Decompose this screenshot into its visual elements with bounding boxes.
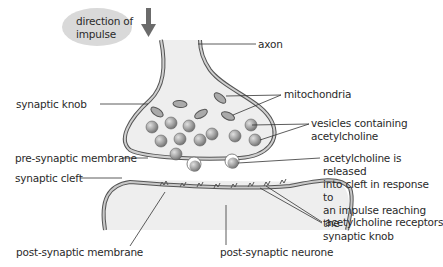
label-release-line-2: into cleft in response to: [323, 178, 440, 204]
label-synaptic-knob: synaptic knob: [16, 98, 87, 111]
label-vesicles-line-1: vesicles containing: [311, 117, 407, 130]
label-vesicles-line-2: acetylcholine: [311, 130, 407, 143]
label-post-synaptic-membrane: post-synaptic membrane: [16, 246, 143, 259]
direction-line-2: impulse: [76, 28, 133, 41]
label-axon: axon: [258, 38, 283, 51]
label-acetylcholine-release: acetylcholine is released into cleft in …: [323, 152, 440, 243]
label-pre-synaptic-membrane: pre-synaptic membrane: [15, 152, 137, 165]
impulse-arrow-icon: [141, 8, 156, 37]
label-acetylcholine-receptors: acetylcholine receptors: [325, 216, 443, 229]
label-release-line-1: acetylcholine is released: [323, 152, 440, 178]
label-synaptic-cleft: synaptic cleft: [15, 172, 83, 185]
label-vesicles: vesicles containing acetylcholine: [311, 117, 407, 143]
label-mitochondria: mitochondria: [284, 88, 351, 101]
direction-bubble-text: direction of impulse: [76, 15, 133, 41]
label-post-synaptic-neurone: post-synaptic neurone: [220, 246, 333, 259]
direction-line-1: direction of: [76, 15, 133, 28]
label-release-line-4: synaptic knob: [323, 230, 440, 243]
